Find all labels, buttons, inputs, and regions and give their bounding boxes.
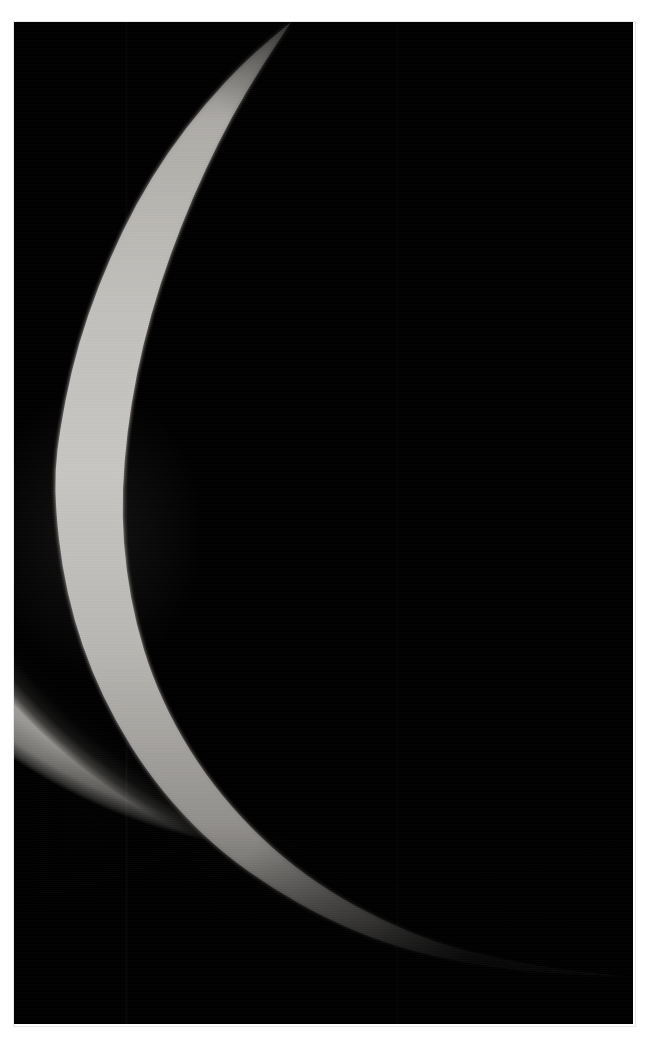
crescent-limb-canvas: [14, 22, 633, 1024]
astronomical-photograph: [14, 22, 633, 1024]
caption-text: [14, 1030, 633, 1036]
page-root: [0, 0, 646, 1062]
